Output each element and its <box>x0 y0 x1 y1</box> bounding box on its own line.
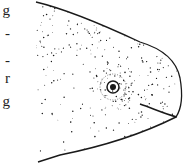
stipple-dot <box>43 15 44 16</box>
stipple-dot <box>172 46 173 47</box>
stipple-dot <box>155 156 156 157</box>
stipple-dot <box>113 27 114 28</box>
stipple-dot <box>127 10 129 12</box>
stipple-dot <box>131 22 132 23</box>
stipple-dot <box>117 108 118 109</box>
stipple-dot <box>94 136 96 138</box>
stipple-dot <box>148 85 149 86</box>
stipple-dot <box>94 56 95 57</box>
stipple-dot <box>80 108 81 109</box>
stipple-dot <box>124 0 125 1</box>
stipple-dot <box>107 25 108 26</box>
stipple-dot <box>121 1 122 2</box>
stipple-dot <box>157 84 158 85</box>
stipple-dot <box>104 89 105 90</box>
stipple-dot <box>60 104 61 105</box>
stipple-dot <box>124 145 125 146</box>
stipple-dot <box>52 25 53 26</box>
stipple-dot <box>174 3 175 4</box>
stipple-dot <box>116 96 117 97</box>
stipple-dot <box>112 90 113 91</box>
stipple-dot <box>128 98 129 99</box>
stipple-dot <box>152 4 153 5</box>
stipple-dot <box>64 149 65 150</box>
stipple-dot <box>155 136 156 137</box>
stipple-dot <box>119 18 120 19</box>
stipple-dot <box>143 45 144 46</box>
stipple-dot <box>159 69 160 70</box>
stipple-dot <box>90 88 91 89</box>
stipple-dot <box>128 91 129 92</box>
stipple-dot <box>126 28 127 29</box>
stipple-dot <box>42 113 44 115</box>
stipple-dot <box>99 32 101 34</box>
stipple-dot <box>92 88 94 90</box>
stipple-dot <box>51 61 52 62</box>
stipple-dot <box>129 107 131 109</box>
stipple-dot <box>180 161 181 162</box>
stipple-dot <box>54 10 55 11</box>
fish-head-illustration <box>0 0 190 165</box>
stipple-dot <box>169 86 170 87</box>
stipple-dot <box>128 68 129 69</box>
stipple-dot <box>53 70 54 71</box>
stipple-dot <box>44 99 45 100</box>
stipple-dot <box>129 15 131 17</box>
stipple-dot <box>68 20 69 21</box>
stipple-dot <box>176 70 177 71</box>
stipple-dot <box>79 13 80 14</box>
stipple-dot <box>63 96 65 98</box>
stipple-dot <box>163 108 164 109</box>
stipple-dot <box>122 9 123 10</box>
stipple-dot <box>182 36 183 37</box>
stipple-dot <box>40 42 41 43</box>
stipple-dot <box>100 99 101 100</box>
stipple-dot <box>113 130 114 131</box>
stipple-dot <box>41 46 42 47</box>
stipple-dot <box>131 47 132 48</box>
stipple-dot <box>81 45 82 46</box>
stipple-dot <box>70 121 72 123</box>
stipple-dot <box>94 33 95 34</box>
stipple-dot <box>92 12 93 13</box>
stipple-dot <box>141 111 142 112</box>
stipple-dot <box>139 75 140 76</box>
stipple-dot <box>72 118 73 119</box>
stipple-dot <box>120 77 121 78</box>
stipple-dot <box>105 108 106 109</box>
stipple-dot <box>115 16 116 17</box>
stipple-dot <box>151 151 152 152</box>
stipple-dot <box>97 1 98 2</box>
stipple-dot <box>120 73 121 74</box>
stipple-dot <box>99 41 100 42</box>
stipple-dot <box>37 89 38 90</box>
stipple-dot <box>84 28 85 29</box>
stipple-dot <box>183 72 185 74</box>
stipple-dot <box>147 8 148 9</box>
stipple-dot <box>95 68 96 69</box>
stipple-dot <box>152 84 153 85</box>
stipple-dot <box>142 130 143 131</box>
stipple-dot <box>124 95 125 96</box>
head-outline <box>36 2 182 117</box>
stipple-dot <box>134 122 135 123</box>
stipple-dot <box>119 83 120 84</box>
stipple-dot <box>150 67 151 68</box>
stipple-dot <box>132 91 134 93</box>
stipple-dot <box>92 44 93 45</box>
stipple-dot <box>97 89 98 90</box>
stipple-dot <box>183 44 184 45</box>
stipple-dot <box>165 14 166 15</box>
stipple-dot <box>84 148 85 149</box>
stipple-dot <box>106 127 108 129</box>
stipple-dot <box>163 121 164 122</box>
stipple-dot <box>90 127 91 128</box>
stipple-dot <box>120 109 121 110</box>
stipple-dot <box>115 101 117 103</box>
stipple-dot <box>142 60 143 61</box>
stipple-dot <box>93 90 94 91</box>
stipple-dot <box>104 95 105 96</box>
stipple-dot <box>149 103 150 104</box>
stipple-dot <box>90 35 91 36</box>
stipple-dot <box>96 30 97 31</box>
